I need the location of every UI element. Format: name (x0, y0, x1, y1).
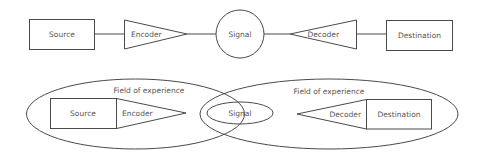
communication-diagram: Source Encoder Signal Decoder Destinatio… (0, 0, 481, 155)
source-node: Source (30, 20, 95, 50)
signal-label-2: Signal (228, 109, 251, 118)
source-label: Source (49, 30, 75, 39)
decoder-label: Decoder (307, 30, 339, 39)
experience-model: Field of experience Field of experience … (27, 79, 459, 149)
destination-node-2: Destination (367, 100, 432, 130)
encoder-node-2: Encoder (117, 99, 187, 129)
source-node-2: Source (51, 99, 117, 129)
signal-node: Signal (216, 10, 264, 58)
destination-label: Destination (398, 31, 441, 40)
decoder-node: Decoder (290, 20, 357, 49)
source-label-2: Source (70, 109, 96, 118)
encoder-node: Encoder (125, 20, 188, 49)
right-field-label: Field of experience (294, 87, 365, 96)
signal-label: Signal (228, 30, 251, 39)
decoder-label-2: Decoder (329, 110, 361, 119)
encoder-label-2: Encoder (122, 109, 154, 118)
destination-node: Destination (387, 21, 453, 51)
linear-model: Source Encoder Signal Decoder Destinatio… (30, 10, 453, 58)
destination-label-2: Destination (377, 110, 420, 119)
decoder-node-2: Decoder (297, 100, 367, 130)
signal-node-2: Signal (207, 102, 273, 124)
encoder-label: Encoder (131, 30, 163, 39)
left-field-label: Field of experience (114, 86, 185, 95)
